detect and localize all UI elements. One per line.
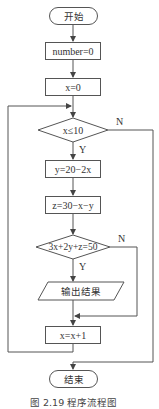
condition-x-label: x≤10 [63,125,84,136]
init-x-label: x=0 [65,82,81,93]
init-number-box: number=0 [45,42,101,60]
cond-eq-no-label: N [118,233,125,244]
calc-z-label: z=30−x−y [52,200,93,211]
cond-x-yes-label: Y [79,144,86,155]
increment-box: x=x+1 [45,326,101,344]
condition-x-diamond: x≤10 [38,118,108,142]
calc-y-label: y=20−2x [55,164,91,175]
output-parallelogram: 输出结果 [40,282,122,300]
output-label: 输出结果 [61,284,101,298]
end-label: 结束 [64,372,84,386]
cond-x-no-label: N [116,116,123,127]
init-number-label: number=0 [52,46,93,57]
init-x-box: x=0 [45,78,101,96]
calc-y-box: y=20−2x [45,160,101,178]
condition-eq-label: 3x+2y+z=50 [49,242,98,252]
condition-eq-diamond: 3x+2y+z=50 [36,235,110,259]
start-label: 开始 [64,9,84,23]
cond-eq-yes-label: Y [79,261,86,272]
figure-caption: 图 2.19 程序流程图 [30,395,117,409]
end-terminal: 结束 [49,370,98,388]
start-terminal: 开始 [49,7,98,25]
calc-z-box: z=30−x−y [45,196,101,214]
increment-label: x=x+1 [60,330,86,341]
